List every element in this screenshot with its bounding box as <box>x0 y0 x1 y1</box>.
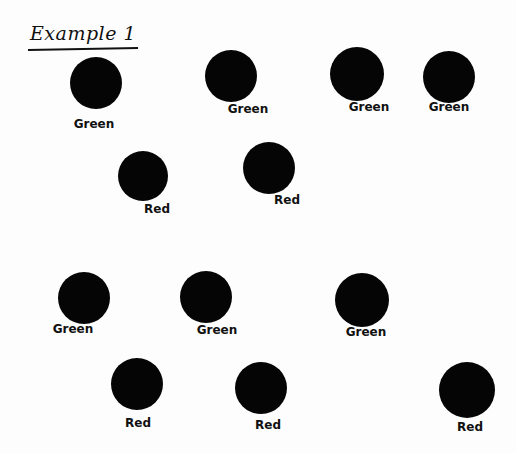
black-dot-red <box>111 358 163 410</box>
dot-label: Red <box>125 416 151 430</box>
dot-label: Green <box>74 117 115 131</box>
black-dot-green <box>70 57 122 109</box>
drawing-page: Example 1 GreenGreenGreenGreenRedRedGree… <box>0 0 516 454</box>
dot-label: Red <box>144 202 170 216</box>
black-dot-red <box>235 362 287 414</box>
black-dot-red <box>118 151 168 201</box>
black-dot-green <box>330 47 384 101</box>
dot-label: Green <box>228 102 269 116</box>
dot-label: Green <box>429 100 470 114</box>
dot-label: Green <box>197 323 238 337</box>
black-dot-green <box>335 273 389 327</box>
dot-label: Red <box>457 420 483 434</box>
title-underline <box>28 47 138 51</box>
black-dot-green <box>423 51 475 103</box>
dot-label: Red <box>255 418 281 432</box>
black-dot-green <box>205 50 257 102</box>
dot-label: Green <box>349 100 390 114</box>
black-dot-green <box>180 271 232 323</box>
black-dot-red <box>243 142 295 194</box>
black-dot-green <box>58 272 110 324</box>
dot-label: Green <box>53 322 94 336</box>
dot-label: Green <box>346 325 387 339</box>
example-title: Example 1 <box>30 22 136 44</box>
dot-label: Red <box>274 193 300 207</box>
black-dot-red <box>439 362 495 418</box>
